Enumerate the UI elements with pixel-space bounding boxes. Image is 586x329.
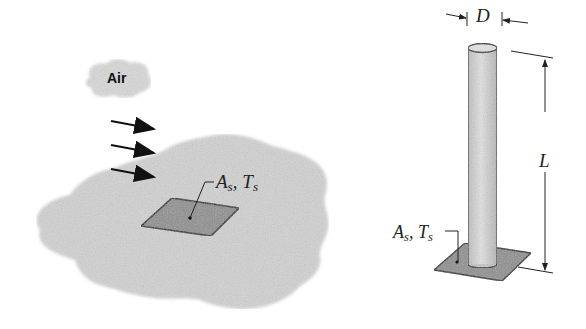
length-label: L [539, 150, 550, 172]
air-label: Air [107, 70, 126, 86]
area-symbol: A [216, 171, 228, 192]
temperature-subscript: s [428, 230, 433, 244]
temperature-subscript: s [253, 179, 258, 194]
label-separator: , [233, 171, 243, 192]
surface-label-right: As, Ts [393, 222, 433, 245]
flow-arrow-1 [111, 121, 154, 129]
area-symbol: A [393, 222, 404, 242]
label-separator: , [409, 222, 418, 242]
diagram-canvas [0, 0, 586, 329]
temperature-symbol: T [242, 171, 253, 192]
flow-arrow-2 [111, 145, 154, 153]
diameter-label: D [476, 5, 490, 27]
surface-label-left: As, Ts [216, 171, 258, 195]
temperature-symbol: T [418, 222, 428, 242]
pin-fin-cylinder [468, 44, 497, 269]
